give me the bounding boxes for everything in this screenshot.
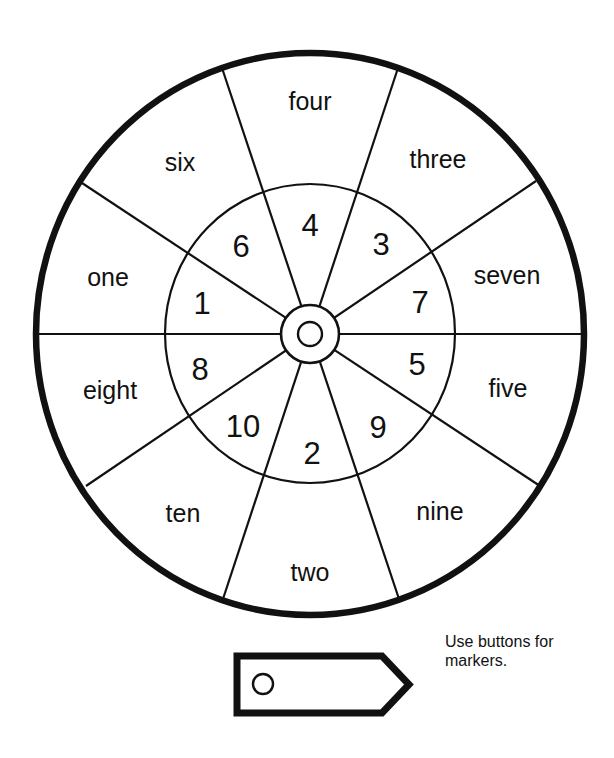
- outer-word-2: seven: [474, 261, 541, 289]
- outer-word-0: four: [288, 87, 331, 115]
- outer-word-8: one: [87, 263, 129, 291]
- inner-number-6: 10: [226, 409, 260, 444]
- inner-number-0: 4: [301, 208, 318, 243]
- outer-word-5: two: [291, 558, 330, 586]
- inner-number-5: 2: [303, 436, 320, 471]
- marker-instruction-note: Use buttons for markers.: [445, 632, 610, 670]
- outer-word-7: eight: [83, 376, 137, 404]
- outer-word-4: nine: [416, 497, 463, 525]
- pointer-marker: [237, 656, 409, 713]
- pointer-hole-icon: [253, 674, 273, 694]
- inner-number-2: 7: [411, 285, 428, 320]
- inner-number-4: 9: [369, 410, 386, 445]
- inner-number-7: 8: [191, 352, 208, 387]
- hub-inner: [298, 322, 322, 346]
- inner-number-1: 3: [372, 227, 389, 262]
- outer-word-9: six: [165, 148, 196, 176]
- inner-number-3: 5: [408, 347, 425, 382]
- outer-word-1: three: [410, 145, 467, 173]
- outer-word-6: ten: [166, 499, 201, 527]
- inner-number-8: 1: [193, 286, 210, 321]
- outer-word-3: five: [489, 374, 528, 402]
- inner-number-9: 6: [232, 229, 249, 264]
